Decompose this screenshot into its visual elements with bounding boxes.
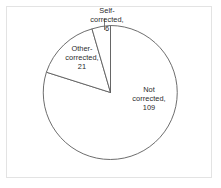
pie-label-self-corrected: Self- corrected, 6 <box>72 6 142 34</box>
pie-label-not-corrected: Not corrected, 109 <box>118 85 180 113</box>
pie-plot-area: Self- corrected, 6 Other- corrected, 21 … <box>0 0 221 188</box>
pie-label-other-corrected: Other- corrected, 21 <box>50 44 114 72</box>
pie-chart-figure: Self- corrected, 6 Other- corrected, 21 … <box>0 0 221 188</box>
